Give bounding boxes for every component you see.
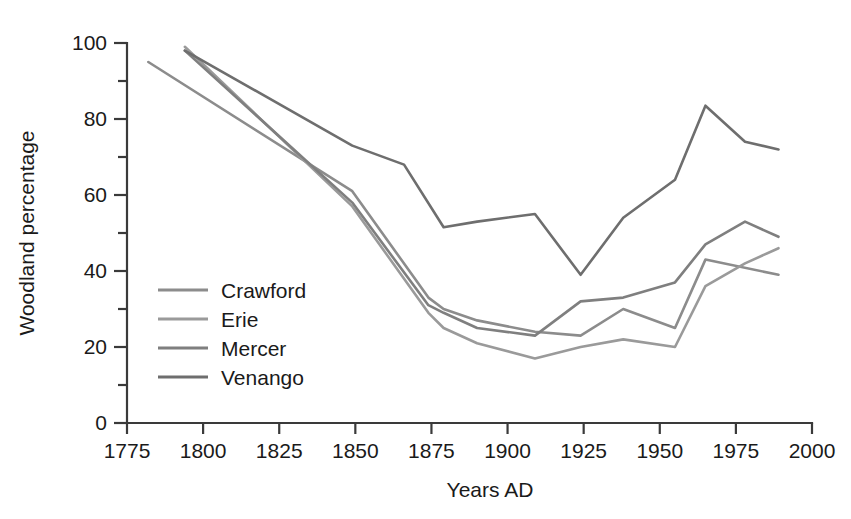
legend-label-crawford: Crawford xyxy=(221,279,306,302)
y-tick-label: 80 xyxy=(84,107,107,130)
x-tick-label: 1900 xyxy=(484,439,531,462)
y-tick-label: 60 xyxy=(84,183,107,206)
legend-label-erie: Erie xyxy=(221,308,258,331)
axis-ticks xyxy=(114,43,812,434)
legend-label-venango: Venango xyxy=(221,366,304,389)
chart-legend: CrawfordErieMercerVenango xyxy=(158,279,306,389)
y-tick-label: 0 xyxy=(95,411,107,434)
x-tick-label: 1875 xyxy=(408,439,455,462)
x-axis-title: Years AD xyxy=(447,478,534,501)
y-tick-label: 40 xyxy=(84,259,107,282)
x-tick-label: 1850 xyxy=(332,439,379,462)
x-tick-label: 1800 xyxy=(180,439,227,462)
series-line-venango xyxy=(185,51,779,275)
x-tick-label: 2000 xyxy=(789,439,836,462)
x-tick-label: 1925 xyxy=(560,439,607,462)
y-tick-label: 20 xyxy=(84,335,107,358)
y-tick-label: 100 xyxy=(72,31,107,54)
x-tick-label: 1825 xyxy=(256,439,303,462)
x-tick-label: 1975 xyxy=(713,439,760,462)
x-axis-tick-labels: 1775180018251850187519001925195019752000 xyxy=(104,439,836,462)
y-axis-title: Woodland percentage xyxy=(15,130,38,335)
chart-page: 1775180018251850187519001925195019752000… xyxy=(0,0,851,519)
legend-label-mercer: Mercer xyxy=(221,337,286,360)
woodland-percentage-line-chart: 1775180018251850187519001925195019752000… xyxy=(0,0,851,519)
x-tick-label: 1775 xyxy=(104,439,151,462)
series-line-erie xyxy=(185,47,779,359)
x-tick-label: 1950 xyxy=(636,439,683,462)
y-axis-tick-labels: 020406080100 xyxy=(72,31,107,434)
